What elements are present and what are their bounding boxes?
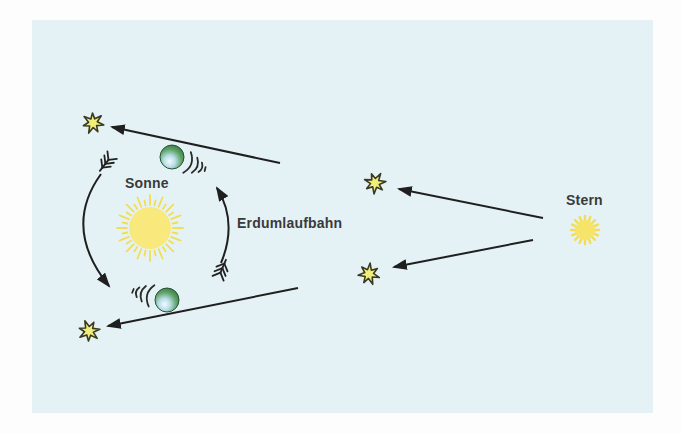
earth-globe-icon-top [160, 145, 184, 169]
diagram-panel [32, 20, 653, 413]
earth-globe-icon-bottom [155, 288, 179, 312]
sun-icon [117, 195, 183, 261]
sun-disk [129, 207, 171, 249]
sun-label: Sonne [125, 175, 169, 191]
fuzzy-star-icon [571, 216, 599, 244]
star-label: Stern [566, 192, 603, 208]
diagram-figure: Sonne Erdumlaufbahn Stern [0, 0, 681, 433]
orbit-label: Erdumlaufbahn [237, 215, 342, 231]
